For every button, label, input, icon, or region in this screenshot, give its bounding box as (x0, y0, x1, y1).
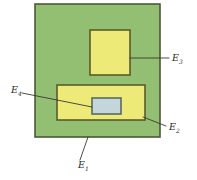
label-e4-base: E (10, 84, 18, 95)
figure-container: E3 E2 E4 E1 (0, 0, 197, 180)
label-e2-base: E (168, 121, 176, 132)
label-e4-subscript: 4 (17, 90, 22, 97)
label-e3-subscript: 3 (179, 58, 183, 65)
region-e4-inner-blue (92, 98, 121, 114)
label-e3-base: E (171, 52, 179, 63)
region-e3-upper-yellow (90, 30, 130, 75)
label-e1-base: E (77, 159, 85, 170)
diagram-svg: E3 E2 E4 E1 (0, 0, 197, 180)
label-e1-subscript: 1 (85, 165, 89, 172)
label-e2-subscript: 2 (175, 127, 180, 134)
